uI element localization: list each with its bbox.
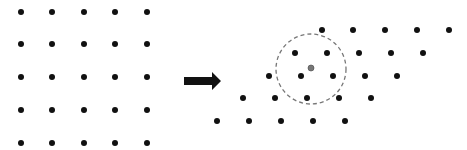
lattice-dot bbox=[81, 41, 87, 47]
center-dot bbox=[308, 65, 314, 71]
lattice-dot bbox=[49, 107, 55, 113]
lattice-dot bbox=[49, 74, 55, 80]
lattice-dot bbox=[144, 41, 150, 47]
lattice-dot bbox=[112, 74, 118, 80]
lattice-dot bbox=[18, 107, 24, 113]
lattice-dot bbox=[292, 50, 298, 56]
lattice-dot bbox=[49, 41, 55, 47]
lattice-dot bbox=[49, 140, 55, 146]
lattice-dot bbox=[272, 95, 278, 101]
lattice-transformation-diagram bbox=[0, 0, 467, 150]
lattice-dot bbox=[420, 50, 426, 56]
lattice-dot bbox=[304, 95, 310, 101]
lattice-dot bbox=[319, 27, 325, 33]
lattice-dot bbox=[266, 73, 272, 79]
lattice-dot bbox=[336, 95, 342, 101]
lattice-dot bbox=[214, 118, 220, 124]
lattice-dot bbox=[394, 73, 400, 79]
lattice-dot bbox=[324, 50, 330, 56]
lattice-dot bbox=[382, 27, 388, 33]
lattice-dot bbox=[112, 107, 118, 113]
lattice-dot bbox=[112, 41, 118, 47]
lattice-dot bbox=[18, 140, 24, 146]
sheared-lattice bbox=[214, 27, 452, 124]
lattice-dot bbox=[350, 27, 356, 33]
lattice-dot bbox=[310, 118, 316, 124]
lattice-dot bbox=[342, 118, 348, 124]
transform-arrow-icon bbox=[184, 72, 221, 90]
lattice-dot bbox=[356, 50, 362, 56]
lattice-dot bbox=[112, 140, 118, 146]
lattice-dot bbox=[81, 140, 87, 146]
lattice-dot bbox=[18, 9, 24, 15]
lattice-dot bbox=[298, 73, 304, 79]
arrow-shape bbox=[184, 72, 221, 90]
lattice-dot bbox=[414, 27, 420, 33]
lattice-dot bbox=[388, 50, 394, 56]
lattice-dot bbox=[144, 74, 150, 80]
lattice-dot bbox=[81, 74, 87, 80]
lattice-dot bbox=[144, 107, 150, 113]
lattice-dot bbox=[144, 9, 150, 15]
square-lattice bbox=[18, 9, 150, 146]
lattice-dot bbox=[240, 95, 246, 101]
lattice-dot bbox=[81, 107, 87, 113]
lattice-dot bbox=[112, 9, 118, 15]
lattice-dot bbox=[81, 9, 87, 15]
lattice-dot bbox=[49, 9, 55, 15]
lattice-dot bbox=[18, 74, 24, 80]
lattice-dot bbox=[246, 118, 252, 124]
lattice-dot bbox=[330, 73, 336, 79]
lattice-dot bbox=[144, 140, 150, 146]
lattice-dot bbox=[18, 41, 24, 47]
lattice-dot bbox=[362, 73, 368, 79]
lattice-dot bbox=[278, 118, 284, 124]
lattice-dot bbox=[368, 95, 374, 101]
lattice-dot bbox=[446, 27, 452, 33]
center-point bbox=[308, 65, 314, 71]
